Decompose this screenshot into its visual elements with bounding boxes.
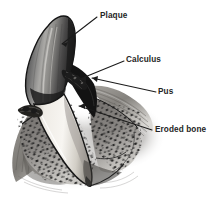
illustration-canvas [0, 0, 223, 213]
periodontal-disease-illustration [0, 0, 223, 213]
label-calculus: Calculus [126, 55, 161, 64]
label-pus: Pus [158, 87, 173, 96]
label-plaque: Plaque [100, 11, 127, 20]
label-eroded-bone: Eroded bone [155, 125, 206, 134]
